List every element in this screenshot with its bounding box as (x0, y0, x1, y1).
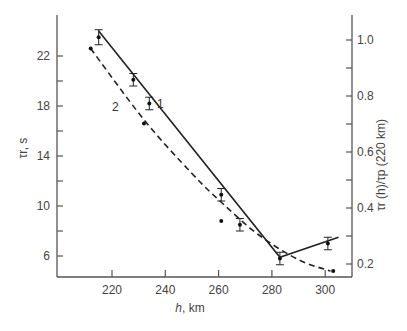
x-tick-label: 260 (209, 283, 229, 297)
series-2-point (219, 219, 223, 223)
series-1-point (97, 35, 101, 39)
y-axis-label-right: τr (h)/τp (220 km) (374, 119, 388, 211)
y-right-tick-label: 0.4 (357, 201, 374, 215)
x-axis-label: h, km (175, 301, 204, 315)
y-right-tick-label: 1.0 (357, 33, 374, 47)
x-tick-label: 240 (155, 283, 175, 297)
chart: 220240260280300 610141822 0.20.40.60.81.… (0, 0, 407, 331)
curve-label-1: 1 (157, 97, 164, 111)
curve-label-2: 2 (112, 100, 119, 114)
y-tick-label: 22 (37, 49, 51, 63)
series-2-point (142, 122, 146, 126)
y-right-tick-label: 0.6 (357, 145, 374, 159)
y-tick-label: 6 (43, 249, 50, 263)
y-ticks-left: 610141822 (37, 49, 63, 263)
y-tick-label: 10 (37, 199, 51, 213)
series-2-point (89, 47, 93, 51)
series-1-point (147, 102, 151, 106)
x-tick-label: 220 (102, 283, 122, 297)
x-ticks: 220240260280300 (102, 270, 336, 297)
y-tick-label: 14 (37, 149, 51, 163)
y-right-tick-label: 0.8 (357, 89, 374, 103)
y-right-tick-label: 0.2 (357, 257, 374, 271)
series-1-point (326, 242, 330, 246)
series-1-point (219, 193, 223, 197)
series-1-point (131, 78, 135, 82)
series-1-line (99, 31, 339, 257)
series-1-point (238, 223, 242, 227)
y-axis-label-left: τr, s (16, 138, 30, 159)
series-2-line (91, 49, 331, 272)
series-2-point (331, 269, 335, 273)
series-1-point (278, 257, 282, 261)
axes (57, 15, 352, 277)
y-tick-label: 18 (37, 99, 51, 113)
y-ticks-right: 0.20.40.60.81.0 (346, 33, 374, 271)
x-tick-label: 280 (262, 283, 282, 297)
x-tick-label: 300 (315, 283, 335, 297)
series (89, 30, 339, 273)
